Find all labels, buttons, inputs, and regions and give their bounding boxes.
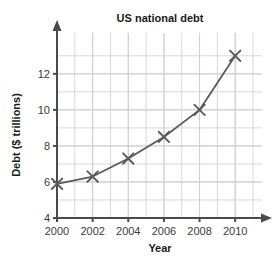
x-tick-label: 2006 — [152, 225, 176, 237]
x-tick-label: 2008 — [187, 225, 211, 237]
chart-container: US national debt 4681012 200020022004200… — [0, 0, 272, 257]
y-tick-label: 12 — [38, 68, 50, 80]
y-tick-label: 4 — [44, 212, 50, 224]
x-tick-label: 2004 — [116, 225, 140, 237]
y-axis-title: Debt ($ trillions) — [10, 93, 22, 177]
x-tick-label: 2010 — [223, 225, 247, 237]
y-tick-label: 8 — [44, 140, 50, 152]
chart-title: US national debt — [117, 12, 204, 24]
y-tick-label: 10 — [38, 104, 50, 116]
x-tick-label: 2002 — [80, 225, 104, 237]
x-tick-label: 2000 — [45, 225, 69, 237]
us-national-debt-line-chart: US national debt 4681012 200020022004200… — [0, 0, 272, 257]
y-tick-label: 6 — [44, 176, 50, 188]
x-axis-title: Year — [148, 242, 172, 254]
